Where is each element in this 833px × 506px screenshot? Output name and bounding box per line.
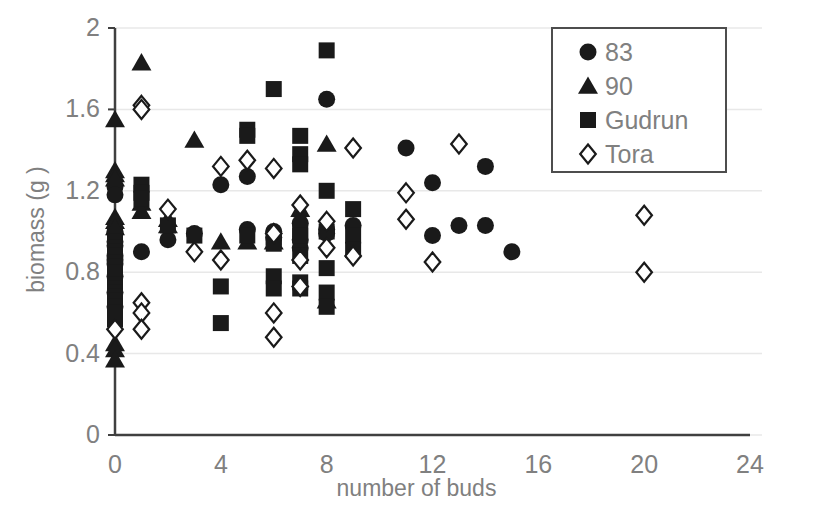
data-point [160, 200, 176, 219]
legend-item-label: Tora [605, 142, 654, 167]
data-point [424, 227, 441, 244]
data-point [425, 253, 441, 272]
data-point [213, 250, 229, 269]
data-point [398, 183, 414, 202]
data-point [266, 81, 282, 97]
y-tick-label: 2 [0, 15, 100, 40]
data-point [266, 280, 282, 296]
data-point [398, 210, 414, 229]
data-point [317, 134, 337, 151]
data-point [398, 140, 415, 157]
data-point [240, 151, 256, 170]
x-tick-label: 4 [181, 452, 261, 477]
data-point [133, 191, 149, 207]
data-point [503, 243, 520, 260]
data-point [319, 238, 335, 257]
y-tick-label: 1.2 [0, 178, 100, 203]
data-point [345, 139, 361, 158]
legend-item-tora[interactable]: Tora [575, 137, 725, 171]
data-point [107, 186, 124, 203]
data-point [319, 285, 335, 301]
data-point [424, 174, 441, 191]
data-point [319, 260, 335, 276]
data-point [187, 242, 203, 261]
y-tick-label: 0 [0, 422, 100, 447]
square-marker-icon [575, 107, 601, 133]
data-point [345, 201, 361, 217]
scatter-chart: 00.40.81.21.62 04812162024 number of bud… [0, 0, 833, 506]
circle-marker-icon [575, 39, 601, 65]
data-point [184, 130, 204, 147]
y-tick-label: 0.8 [0, 259, 100, 284]
data-point [451, 134, 467, 153]
diamond-marker-icon [575, 141, 601, 167]
legend-item-label: 83 [605, 40, 633, 65]
legend-item-83[interactable]: 83 [575, 35, 725, 69]
data-point [133, 243, 150, 260]
x-tick-label: 0 [75, 452, 155, 477]
data-point [213, 278, 229, 294]
data-point [319, 42, 335, 58]
x-axis-title: number of buds [0, 477, 833, 500]
data-point [266, 159, 282, 178]
data-point [211, 232, 231, 249]
data-point [292, 228, 308, 244]
data-point [134, 320, 150, 339]
y-tick-label: 0.4 [0, 341, 100, 366]
data-point [318, 91, 335, 108]
data-point [131, 53, 151, 70]
data-point [159, 231, 176, 248]
series-gudrun [107, 42, 361, 331]
data-point [477, 158, 494, 175]
data-point [105, 110, 125, 127]
legend: 8390GudrunTora [551, 27, 727, 173]
x-tick-label: 20 [604, 452, 684, 477]
data-point [319, 299, 335, 315]
x-tick-label: 12 [393, 452, 473, 477]
data-point [345, 228, 361, 244]
data-point [239, 228, 255, 244]
triangle-marker-icon [575, 73, 601, 99]
y-axis-title: biomass (g ) [25, 130, 48, 330]
data-point [213, 157, 229, 176]
data-point [319, 183, 335, 199]
data-point [292, 128, 308, 144]
legend-item-label: 90 [605, 74, 633, 99]
legend-item-90[interactable]: 90 [575, 69, 725, 103]
data-point [212, 176, 229, 193]
x-tick-label: 16 [498, 452, 578, 477]
x-tick-label: 24 [710, 452, 790, 477]
x-tick-label: 8 [287, 452, 367, 477]
legend-item-gudrun[interactable]: Gudrun [575, 103, 725, 137]
legend-item-label: Gudrun [605, 108, 688, 133]
data-point [213, 315, 229, 331]
data-point [292, 156, 308, 172]
data-point [636, 263, 652, 282]
data-point [266, 303, 282, 322]
y-tick-label: 1.6 [0, 96, 100, 121]
data-point [636, 206, 652, 225]
data-point [266, 328, 282, 347]
data-point [239, 128, 255, 144]
data-point [477, 217, 494, 234]
data-point [450, 217, 467, 234]
